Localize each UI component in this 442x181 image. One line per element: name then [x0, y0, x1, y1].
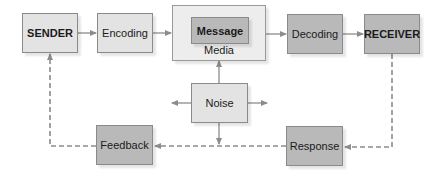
dashed-feedback-sender	[50, 54, 96, 146]
noise-label: Noise	[205, 97, 233, 109]
response-label: Response	[290, 140, 340, 152]
sender-label: SENDER	[27, 27, 73, 39]
message-node: Message	[191, 17, 249, 44]
noise-node: Noise	[191, 83, 248, 123]
encoding-label: Encoding	[102, 27, 148, 39]
encoding-node: Encoding	[97, 13, 153, 53]
media-label: Media	[173, 44, 265, 56]
decoding-label: Decoding	[292, 28, 338, 40]
receiver-node: RECEIVER	[364, 14, 420, 54]
decoding-node: Decoding	[287, 14, 343, 54]
response-node: Response	[286, 126, 343, 166]
dashed-receiver-response	[345, 54, 392, 147]
receiver-label: RECEIVER	[364, 28, 420, 40]
feedback-node: Feedback	[96, 125, 153, 165]
message-label: Message	[197, 25, 243, 37]
media-node: Message Media	[172, 5, 266, 61]
sender-node: SENDER	[22, 13, 78, 53]
feedback-label: Feedback	[100, 139, 148, 151]
